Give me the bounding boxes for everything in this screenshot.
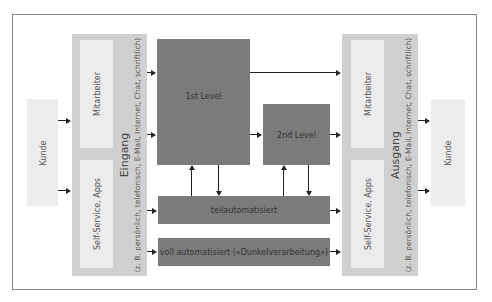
input-subtitle: (z. B. persönlich, telefonisch, E-Mail, …	[133, 38, 142, 273]
arrowhead-icon	[306, 191, 312, 196]
input-selfservice-label: Self-Service, Apps	[92, 178, 101, 250]
arrow-first-level-to-semi	[218, 165, 219, 191]
customer-box-right: Kunde	[431, 99, 465, 206]
output-subtitle-column: (z. B. persönlich, telefonisch, E-Mail, …	[401, 34, 415, 276]
arrowhead-icon	[216, 191, 222, 196]
arrowhead-icon	[151, 70, 156, 76]
input-panel: Mitarbeiter Self-Service, Apps Eingang (…	[72, 34, 147, 276]
customer-label-left: Kunde	[38, 140, 47, 165]
input-employee-label: Mitarbeiter	[92, 72, 101, 116]
input-title: Eingang	[117, 133, 130, 178]
semi-automated-label: teilautomatisiert	[158, 206, 330, 215]
customer-label-right: Kunde	[444, 140, 453, 165]
output-selfservice-box: Self-Service, Apps	[351, 160, 384, 268]
input-selfservice-box: Self-Service, Apps	[80, 160, 113, 268]
output-employee-box: Mitarbeiter	[351, 40, 384, 148]
arrow-second-level-to-semi	[308, 165, 309, 191]
arrowhead-icon	[281, 165, 287, 170]
arrowhead-icon	[425, 188, 430, 194]
arrowhead-icon	[257, 132, 262, 138]
semi-automated-box: teilautomatisiert	[158, 196, 330, 224]
arrowhead-icon	[336, 70, 341, 76]
input-subtitle-column: (z. B. persönlich, telefonisch, E-Mail, …	[130, 34, 144, 276]
arrowhead-icon	[336, 249, 341, 255]
arrowhead-icon	[66, 188, 71, 194]
arrowhead-icon	[336, 208, 341, 214]
second-level-label: 2nd Level	[263, 130, 330, 139]
first-level-box: 1st Level	[157, 39, 250, 165]
customer-box-left: Kunde	[27, 99, 58, 206]
output-panel: Mitarbeiter Self-Service, Apps Ausgang (…	[342, 34, 418, 276]
second-level-box: 2nd Level	[263, 104, 330, 165]
arrowhead-icon	[66, 118, 71, 124]
fully-automated-label: voll automatisiert («Dunkelverarbeitung»…	[158, 248, 330, 257]
arrowhead-icon	[152, 208, 157, 214]
arrowhead-icon	[151, 132, 156, 138]
arrowhead-icon	[336, 132, 341, 138]
output-title: Ausgang	[388, 131, 401, 179]
arrowhead-icon	[152, 249, 157, 255]
arrow-semi-to-first-level	[191, 170, 192, 196]
output-title-column: Ausgang	[387, 34, 402, 276]
input-title-column: Eingang	[116, 34, 131, 276]
arrowhead-icon	[189, 165, 195, 170]
output-employee-label: Mitarbeiter	[363, 72, 372, 116]
input-employee-box: Mitarbeiter	[80, 40, 113, 148]
first-level-label: 1st Level	[157, 91, 250, 100]
arrow-semi-to-second-level	[283, 170, 284, 196]
arrowhead-icon	[425, 118, 430, 124]
fully-automated-box: voll automatisiert («Dunkelverarbeitung»…	[158, 238, 330, 266]
arrow-first-level-to-output	[250, 72, 337, 73]
output-subtitle: (z. B. persönlich, telefonisch, E-Mail, …	[404, 38, 413, 273]
output-selfservice-label: Self-Service, Apps	[363, 178, 372, 250]
